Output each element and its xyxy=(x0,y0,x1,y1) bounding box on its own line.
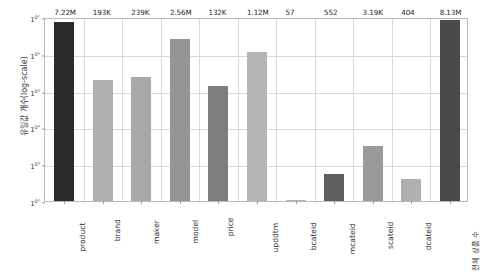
y-tick-mark xyxy=(42,129,45,130)
y-tick-mark xyxy=(42,166,45,167)
bar-value-label: 7.22M xyxy=(54,8,76,17)
bar-column: 193K xyxy=(93,19,113,201)
bar-value-label: 239K xyxy=(131,8,149,17)
bar: 1.12M xyxy=(247,52,267,201)
bar: 2.56M xyxy=(170,39,190,201)
y-tick-label: 10² xyxy=(30,198,40,208)
bar-value-label: 1.12M xyxy=(247,8,269,17)
bar-column: 57 xyxy=(286,19,306,201)
bar-value-label: 8.13M xyxy=(440,8,462,17)
x-tick-mark xyxy=(103,201,104,204)
bar-column: 7.22M xyxy=(54,19,74,201)
x-tick-label: product xyxy=(78,223,87,252)
y-tick-label: 10³ xyxy=(30,161,40,171)
x-tick-label: scateid xyxy=(385,222,394,249)
bar: 132K xyxy=(208,86,228,201)
bar-column: 552 xyxy=(324,19,344,201)
x-tick-label: brand xyxy=(113,219,122,241)
x-tick-label: model xyxy=(191,220,200,244)
x-tick-label: 전체 상품 수 xyxy=(472,231,480,275)
plot-area: 7.22M193K239K2.56M132K1.12M575523.19K404… xyxy=(44,18,468,202)
y-tick-label: 10⁷ xyxy=(30,14,40,24)
y-tick-mark xyxy=(42,92,45,93)
bar-value-label: 132K xyxy=(208,8,226,17)
y-tick-mark xyxy=(42,19,45,20)
bar-value-label: 552 xyxy=(324,8,337,17)
bar-value-label: 3.19K xyxy=(363,8,383,17)
y-tick-label: 10⁶ xyxy=(30,51,40,61)
bar-value-label: 57 xyxy=(286,8,295,17)
x-tick-mark xyxy=(296,201,297,204)
y-tick-label: 10⁴ xyxy=(30,124,40,134)
bar: 8.13M xyxy=(440,20,460,201)
x-tick-mark xyxy=(411,201,412,204)
bar: 3.19K xyxy=(363,146,383,201)
bar: 552 xyxy=(324,174,344,201)
y-tick-mark xyxy=(42,55,45,56)
x-tick-label: mcateid xyxy=(348,223,357,254)
bar-column: 3.19K xyxy=(363,19,383,201)
x-tick-label: price xyxy=(227,217,236,236)
bar-column: 2.56M xyxy=(170,19,190,201)
x-tick-mark xyxy=(257,201,258,204)
bar: 239K xyxy=(131,77,151,201)
bar-column: 132K xyxy=(208,19,228,201)
bar: 7.22M xyxy=(54,22,74,201)
bar-series: 7.22M193K239K2.56M132K1.12M575523.19K404… xyxy=(45,19,467,201)
y-tick-mark xyxy=(42,203,45,204)
x-tick-mark xyxy=(450,201,451,204)
bar-value-label: 193K xyxy=(93,8,111,17)
bar-value-label: 404 xyxy=(401,8,414,17)
bar: 404 xyxy=(401,179,421,201)
bar-column: 1.12M xyxy=(247,19,267,201)
x-tick-mark xyxy=(218,201,219,204)
bar-value-label: 2.56M xyxy=(170,8,192,17)
x-tick-label: upddtm xyxy=(271,223,280,253)
x-tick-mark xyxy=(141,201,142,204)
x-tick-mark xyxy=(64,201,65,204)
bar-column: 8.13M xyxy=(440,19,460,201)
x-tick-label: maker xyxy=(152,220,161,244)
bar: 193K xyxy=(93,80,113,201)
x-tick-label: dcateid xyxy=(424,222,433,250)
bar-column: 239K xyxy=(131,19,151,201)
x-tick-label: bcateid xyxy=(309,222,318,250)
y-tick-label: 10⁵ xyxy=(30,87,40,97)
x-tick-mark xyxy=(373,201,374,204)
x-tick-mark xyxy=(334,201,335,204)
bar-column: 404 xyxy=(401,19,421,201)
x-tick-mark xyxy=(180,201,181,204)
